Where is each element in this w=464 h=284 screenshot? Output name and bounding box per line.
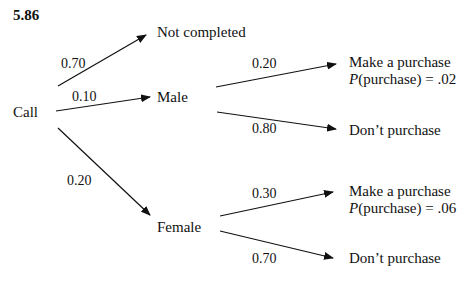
edge-label-male-purchase: 0.20: [252, 56, 277, 72]
node-not-completed: Not completed: [157, 24, 246, 40]
node-female-purchase: Make a purchase: [349, 183, 451, 199]
male-purchase-probability: P(purchase) = .02: [349, 71, 456, 87]
node-female: Female: [157, 219, 201, 235]
node-male-no-purchase: Don’t purchase: [349, 122, 441, 138]
edge-female-no-purchase: [220, 231, 333, 258]
problem-number: 5.86: [13, 7, 39, 23]
node-male-purchase: Make a purchase: [349, 54, 451, 70]
prob-fn: P: [349, 200, 358, 216]
tree-edges: [0, 0, 464, 284]
female-purchase-probability: P(purchase) = .06: [349, 200, 456, 216]
prob-value: (purchase) = .06: [358, 200, 456, 216]
edge-call-male: [56, 97, 150, 111]
edge-female-purchase: [220, 192, 333, 216]
prob-value: (purchase) = .02: [358, 71, 456, 87]
node-call: Call: [13, 104, 38, 120]
edge-label-male-no-purchase: 0.80: [252, 121, 277, 137]
edge-label-call-female: 0.20: [67, 173, 92, 189]
node-male: Male: [157, 89, 188, 105]
edge-male-no-purchase: [217, 112, 336, 129]
edge-label-call-male: 0.10: [72, 89, 97, 105]
node-female-no-purchase: Don’t purchase: [349, 250, 441, 266]
edge-label-call-not-completed: 0.70: [61, 56, 86, 72]
edge-label-female-purchase: 0.30: [252, 186, 277, 202]
edge-call-female: [58, 128, 150, 215]
edge-label-female-no-purchase: 0.70: [252, 251, 277, 267]
prob-fn: P: [349, 71, 358, 87]
